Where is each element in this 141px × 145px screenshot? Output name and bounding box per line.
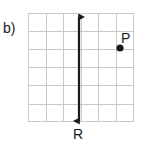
point-p-label: P <box>121 31 130 45</box>
geometry-figure: b) P R <box>0 0 141 145</box>
figure-canvas <box>0 0 141 145</box>
line-r-label: R <box>73 127 83 141</box>
figure-background <box>0 0 141 145</box>
part-label: b) <box>3 21 15 35</box>
